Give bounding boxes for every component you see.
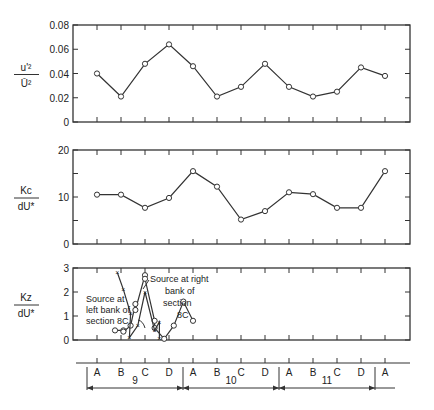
annotation-right-bank: section — [163, 298, 192, 308]
data-point-x: × — [143, 289, 147, 296]
y-tick-label: 2 — [63, 287, 69, 298]
data-point — [286, 190, 291, 195]
annotation-left-bank: Source at — [86, 294, 125, 304]
y-axis-label-numerator: Kz — [20, 292, 32, 303]
data-point — [238, 84, 243, 89]
data-point — [238, 217, 243, 222]
station-letter: D — [261, 367, 268, 378]
annotation-left-bank: left bank of — [86, 305, 131, 315]
y-axis-label-numerator: u'² — [21, 62, 32, 73]
plot-frame — [73, 25, 410, 122]
data-point — [358, 205, 363, 210]
y-axis-label-denominator: Ū² — [21, 78, 32, 89]
station-letter: C — [237, 367, 244, 378]
data-point — [112, 328, 117, 333]
series-line — [97, 171, 385, 219]
data-point — [310, 94, 315, 99]
y-axis-label-numerator: Kc — [20, 185, 32, 196]
station-letter: C — [333, 367, 340, 378]
section-label: 11 — [322, 375, 333, 386]
station-letter: A — [382, 367, 389, 378]
data-point-x: × — [115, 269, 119, 276]
data-point-x: × — [136, 322, 140, 329]
data-point — [171, 323, 176, 328]
data-point — [190, 64, 195, 69]
station-letter: B — [310, 367, 317, 378]
y-tick-label: 0 — [63, 239, 69, 250]
station-letter: B — [214, 367, 221, 378]
data-point-x: × — [121, 286, 125, 293]
data-point — [166, 195, 171, 200]
plot-frame — [73, 150, 410, 244]
station-letter: D — [357, 367, 364, 378]
data-point — [142, 276, 147, 281]
y-tick-label: 0 — [63, 335, 69, 346]
data-point — [214, 94, 219, 99]
station-letter: C — [141, 367, 148, 378]
data-point — [166, 42, 171, 47]
annotation-right-bank: Source at right — [150, 274, 209, 284]
data-point — [162, 336, 167, 341]
data-point — [382, 73, 387, 78]
panel-bottom: 0123KzdU*×××××××××Source at rightbank of… — [14, 263, 410, 346]
data-point — [382, 169, 387, 174]
y-tick-label: 20 — [58, 145, 70, 156]
data-point — [142, 205, 147, 210]
panel-middle: 01020KcdU* — [14, 145, 410, 250]
data-point — [118, 192, 123, 197]
data-point — [94, 192, 99, 197]
data-point — [94, 71, 99, 76]
data-point-x: × — [127, 334, 131, 341]
y-tick-label: 0.02 — [50, 93, 70, 104]
y-tick-label: 0 — [63, 117, 69, 128]
section-label: 9 — [132, 375, 138, 386]
data-point — [142, 61, 147, 66]
annotation-right-bank: 8C — [177, 310, 189, 320]
y-axis-label-denominator: dU* — [18, 201, 35, 212]
panel-top: 00.020.040.060.08u'²Ū² — [14, 20, 410, 128]
data-point-x: × — [153, 327, 157, 334]
data-point — [358, 65, 363, 70]
data-point-x: × — [157, 319, 161, 326]
section-label: 10 — [225, 375, 237, 386]
data-point — [121, 329, 126, 334]
station-letter: B — [118, 367, 125, 378]
station-axis: ABCDABCDABCDA91011 — [76, 358, 410, 391]
data-point-x: × — [157, 335, 161, 342]
chart-figure: 00.020.040.060.08u'²Ū²01020KcdU*0123KzdU… — [0, 0, 434, 410]
data-point — [262, 209, 267, 214]
y-tick-label: 0.08 — [50, 20, 70, 31]
station-letter: A — [286, 367, 293, 378]
annotation-left-bank: section 8C — [86, 316, 129, 326]
y-axis-label-denominator: dU* — [18, 308, 35, 319]
data-point — [334, 89, 339, 94]
data-point — [118, 94, 123, 99]
data-point — [133, 307, 138, 312]
annotation-right-bank: bank of — [165, 286, 195, 296]
data-point — [214, 184, 219, 189]
station-letter: A — [94, 367, 101, 378]
data-point — [334, 205, 339, 210]
data-point — [133, 301, 138, 306]
data-point — [310, 192, 315, 197]
data-point — [190, 318, 195, 323]
y-tick-label: 0.06 — [50, 44, 70, 55]
station-letter: A — [190, 367, 197, 378]
data-point — [286, 84, 291, 89]
data-point — [190, 169, 195, 174]
data-point — [262, 61, 267, 66]
y-tick-label: 1 — [63, 311, 69, 322]
y-tick-label: 0.04 — [50, 69, 70, 80]
y-tick-label: 3 — [63, 263, 69, 274]
station-letter: D — [165, 367, 172, 378]
y-tick-label: 10 — [58, 192, 70, 203]
